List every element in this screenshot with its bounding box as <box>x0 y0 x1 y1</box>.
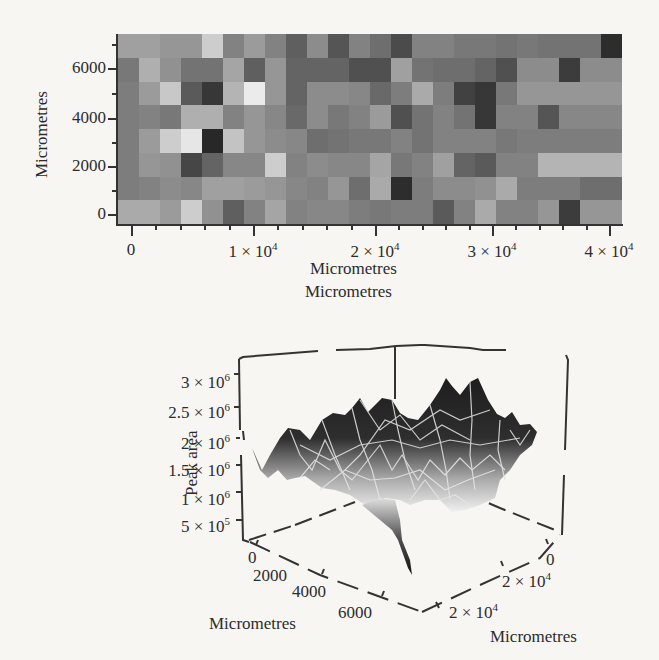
surface-x-tick-2: 2 × 104 <box>449 601 498 623</box>
surface-y-tick-0: 0 <box>248 548 257 568</box>
z-tick-label: 3 × 106 <box>181 371 230 393</box>
surface-z-axis-title: Peak area <box>182 430 202 496</box>
surface-right-axis-title: Micrometres <box>490 627 577 647</box>
surface-x-tick-1: 2 × 104 <box>502 570 551 592</box>
surface-left-axis-title: Micrometres <box>209 614 296 634</box>
surface-plot <box>0 0 659 660</box>
surface-y-tick-2000: 2000 <box>253 566 287 586</box>
surface-x-tick-0: 0 <box>546 550 555 570</box>
surface-y-tick-6000: 6000 <box>338 603 372 623</box>
surface-mesh <box>252 378 537 575</box>
z-tick-label: 5 × 105 <box>181 515 230 537</box>
surface-y-tick-4000: 4000 <box>292 582 326 602</box>
z-tick-label: 2.5 × 106 <box>168 401 230 423</box>
